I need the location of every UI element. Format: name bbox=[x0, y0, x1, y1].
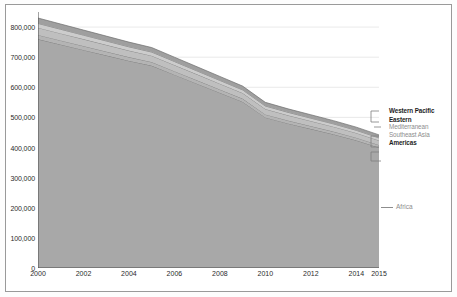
legend: Western PacificEasternMediterraneanSouth… bbox=[381, 108, 453, 216]
y-axis-tick-700000: 700,000 bbox=[10, 54, 35, 61]
x-axis-tick-2008: 2008 bbox=[212, 270, 228, 278]
legend-item-africa: Africa bbox=[381, 203, 451, 213]
plot-area bbox=[38, 12, 379, 268]
y-axis-tick-100000: 100,000 bbox=[10, 234, 35, 241]
legend-label-western-pacific: Western Pacific bbox=[389, 108, 434, 115]
y-axis-labels: 0100,000200,000300,000400,000500,000600,… bbox=[0, 12, 35, 268]
legend-label-africa: Africa bbox=[396, 203, 413, 211]
y-axis-tick-500000: 500,000 bbox=[10, 114, 35, 121]
x-axis-tick-2002: 2002 bbox=[76, 270, 92, 278]
stacked-area-svg bbox=[38, 12, 379, 268]
y-axis-tick-200000: 200,000 bbox=[10, 204, 35, 211]
y-axis-tick-400000: 400,000 bbox=[10, 144, 35, 151]
legend-label-southeast-asia: Southeast Asia bbox=[389, 132, 430, 139]
chart-figure: 0100,000200,000300,000400,000500,000600,… bbox=[0, 0, 457, 297]
x-axis-labels: 200020022004200620082010201220142015 bbox=[38, 270, 379, 284]
y-axis-tick-300000: 300,000 bbox=[10, 174, 35, 181]
y-axis-tick-800000: 800,000 bbox=[10, 24, 35, 31]
x-axis-tick-2000: 2000 bbox=[30, 270, 46, 278]
x-axis-tick-2010: 2010 bbox=[258, 270, 274, 278]
x-axis-tick-2012: 2012 bbox=[303, 270, 319, 278]
legend-leader-line-africa bbox=[381, 207, 393, 208]
x-axis-tick-2004: 2004 bbox=[121, 270, 137, 278]
legend-label-mediterranean: Mediterranean bbox=[389, 124, 428, 131]
legend-label-americas: Americas bbox=[389, 140, 417, 147]
x-axis-tick-2015: 2015 bbox=[371, 270, 387, 278]
x-axis-tick-2006: 2006 bbox=[167, 270, 183, 278]
x-axis-tick-2014: 2014 bbox=[349, 270, 365, 278]
y-axis-tick-600000: 600,000 bbox=[10, 84, 35, 91]
legend-bracket-icon bbox=[369, 109, 389, 165]
